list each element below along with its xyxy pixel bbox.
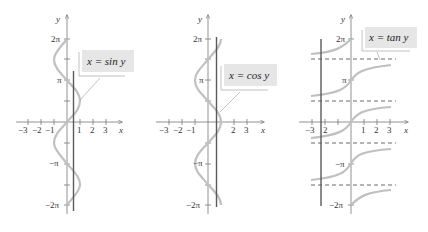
- panel-cos: −3 −2 −1 2 3 x y 2π π −π −2π x = cos y: [156, 14, 277, 214]
- tick-label: 2: [231, 125, 236, 135]
- tick-label: −1: [186, 125, 196, 135]
- equation-label: x = tan y: [368, 31, 409, 43]
- tick-label: −π: [49, 158, 59, 168]
- tick-label: −3: [159, 125, 169, 135]
- tick-label: 3: [387, 125, 392, 135]
- tick-label: π: [199, 75, 204, 85]
- panel-tan: −3 2 1 2 3 x y 2π π −π −2π x = tan y: [299, 14, 417, 214]
- tick-label: −2π: [45, 200, 60, 210]
- tick-label: −3: [305, 125, 315, 135]
- tick-label: −π: [335, 159, 345, 169]
- tick-label: 2: [374, 125, 379, 135]
- x-axis-label: x: [403, 125, 408, 135]
- tick-label: 3: [103, 125, 108, 135]
- equation-label: x = cos y: [228, 69, 269, 81]
- tick-label: 2π: [336, 34, 346, 44]
- equation-label: x = sin y: [86, 55, 125, 67]
- tick-label: −1: [45, 125, 55, 135]
- tick-label: −3: [18, 125, 28, 135]
- leader-line: [80, 78, 100, 100]
- tick-label: π: [57, 75, 62, 85]
- tick-label: 2π: [193, 34, 203, 44]
- tick-label: 1: [77, 125, 82, 135]
- tick-label: −π: [193, 158, 203, 168]
- x-axis-label: x: [118, 125, 123, 135]
- y-axis-label: y: [55, 14, 60, 24]
- tick-label: −2: [173, 125, 183, 135]
- tick-label: −2: [32, 125, 42, 135]
- tick-label: 3: [244, 125, 249, 135]
- y-axis-label: y: [197, 14, 202, 24]
- panel-sin: −3 −2 −1 1 2 3 x y 2π π −π −2π x = sin y: [16, 14, 134, 214]
- tick-label: π: [342, 75, 347, 85]
- tick-label: −2π: [186, 200, 201, 210]
- tick-label: 2: [323, 125, 328, 135]
- y-axis-label: y: [340, 14, 345, 24]
- x-axis-label: x: [260, 125, 265, 135]
- tick-label: 1: [361, 125, 366, 135]
- tick-label: 2π: [51, 34, 61, 44]
- tick-label: 2: [90, 125, 95, 135]
- figure: −3 −2 −1 1 2 3 x y 2π π −π −2π x = sin y…: [0, 0, 428, 232]
- leader-line: [220, 92, 240, 112]
- tick-label: −2π: [329, 200, 344, 210]
